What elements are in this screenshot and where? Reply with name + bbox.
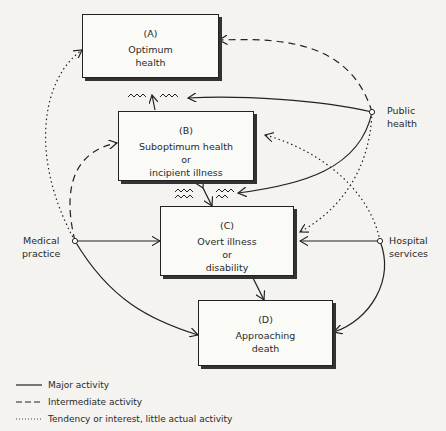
legend-major: Major activity [16, 380, 109, 390]
edge-medical-to-b [70, 143, 117, 241]
squiggle-ab-left [128, 94, 146, 97]
edge-public-to-c [300, 112, 372, 232]
squiggle-ab-right [160, 94, 178, 97]
dotted-line-icon [16, 416, 42, 422]
edge-ab [152, 95, 155, 110]
solid-line-icon [16, 382, 42, 388]
squiggle-bc-left2 [175, 195, 193, 198]
edge-public-to-bc [238, 112, 372, 193]
edge-bc [203, 188, 212, 206]
legend-tendency: Tendency or interest, little actual acti… [16, 414, 232, 424]
label-hospital-services: Hospital services [389, 234, 428, 260]
squiggle-bc-right1 [216, 189, 234, 192]
legend-intermediate: Intermediate activity [16, 397, 142, 407]
squiggle-bc-right2 [216, 195, 228, 198]
edge-c-d [253, 278, 264, 300]
squiggle-bc-left1 [175, 189, 193, 192]
node-c-overt-illness: (C) Overt illness or disability [160, 206, 294, 276]
node-b-suboptimum-health: (B) Suboptimum health or incipient illne… [118, 111, 254, 181]
node-d-approaching-death: (D) Approaching death [198, 300, 333, 366]
node-public-health [369, 109, 374, 114]
edge-medical-to-a [46, 50, 82, 241]
dashed-line-icon [16, 399, 42, 405]
label-medical-practice: Medical practice [22, 234, 60, 260]
edge-hospital-to-d [334, 241, 384, 332]
node-hospital-services [377, 238, 382, 243]
label-public-health: Public health [387, 104, 417, 130]
node-a-optimum-health: (A) Optimum health [82, 14, 219, 78]
edge-public-to-ab [188, 97, 372, 112]
node-medical-practice [72, 238, 77, 243]
